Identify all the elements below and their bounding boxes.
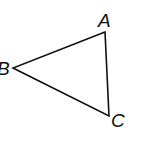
vertex-label-c: C <box>111 110 125 131</box>
vertex-label-b: B <box>0 58 10 79</box>
triangle-abc <box>13 32 109 116</box>
vertex-label-a: A <box>97 10 111 31</box>
triangle-diagram: A B C <box>0 0 147 142</box>
